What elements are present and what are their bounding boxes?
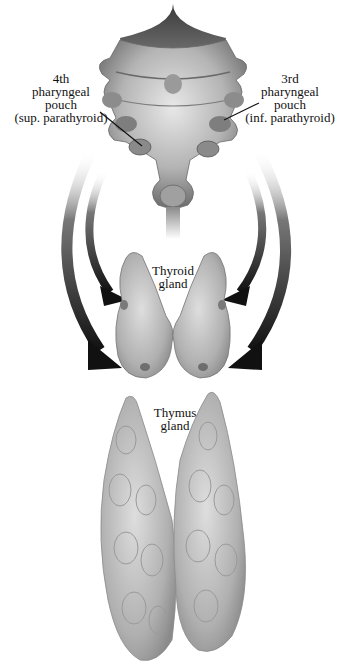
label-4th-pharyngeal-pouch: 4th pharyngeal pouch (sup. parathyroid) xyxy=(2,72,120,124)
label-line: (sup. parathyroid) xyxy=(2,111,120,124)
label-3rd-pharyngeal-pouch: 3rd pharyngeal pouch (inf. parathyroid) xyxy=(236,72,344,124)
label-line: (inf. parathyroid) xyxy=(236,111,344,124)
left-inner-arrow xyxy=(89,170,110,292)
label-thymus-gland: Thymus gland xyxy=(145,406,205,432)
pharyngeal-arches xyxy=(99,4,246,239)
embryology-diagram: 4th pharyngeal pouch (sup. parathyroid) … xyxy=(0,0,346,668)
label-line: gland xyxy=(143,277,203,290)
right-inner-arrow xyxy=(240,170,262,292)
label-thyroid-gland: Thyroid gland xyxy=(143,264,203,290)
label-line: gland xyxy=(145,419,205,432)
